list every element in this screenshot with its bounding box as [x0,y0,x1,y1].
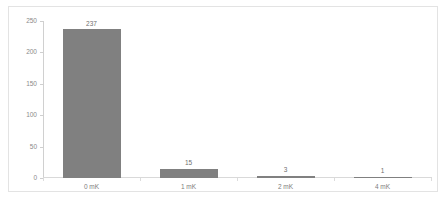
bar[interactable] [354,177,412,178]
y-axis-tick: 0 [9,178,43,179]
x-axis-category-label: 0 mK [43,182,140,191]
y-axis-tick-label: 150 [26,79,37,88]
y-axis-tick-label: 50 [30,142,37,151]
bar[interactable] [257,176,315,178]
y-axis-tick-label: 250 [26,16,37,25]
y-axis-tick: 150 [9,84,43,85]
x-axis-tick-mark [43,178,44,181]
y-axis-tick: 100 [9,115,43,116]
bar-value-label: 237 [86,20,97,28]
x-axis-tick-mark [140,178,141,181]
bar-group: 15 [140,21,237,178]
y-axis-tick: 200 [9,52,43,53]
y-axis-tick-label: 0 [33,173,37,182]
x-axis-tick-mark [431,178,432,181]
bar[interactable] [63,29,121,178]
x-axis-category-label: 2 mK [237,182,334,191]
y-axis-tick-label: 200 [26,47,37,56]
x-axis-category-label: 1 mK [140,182,237,191]
y-axis-tick-label: 100 [26,110,37,119]
x-axis-tick-mark [334,178,335,181]
chart-frame: 0 50 100 150 200 250 237 [8,6,438,192]
y-axis-tick: 50 [9,147,43,148]
x-axis-tick-mark [237,178,238,181]
bar-value-label: 1 [381,167,385,175]
bar[interactable] [160,169,218,178]
x-axis-category-label: 4 mK [334,182,431,191]
bar-group: 3 [237,21,334,178]
bar-group: 1 [334,21,431,178]
bar-value-label: 3 [284,166,288,174]
bar-group: 237 [43,21,140,178]
y-axis-tick: 250 [9,21,43,22]
bar-value-label: 15 [185,159,192,167]
